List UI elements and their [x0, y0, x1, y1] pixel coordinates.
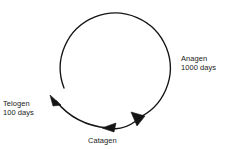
telogen-arc — [56, 101, 108, 128]
telogen-arrowhead-icon — [50, 95, 61, 106]
anagen-arrowhead-icon — [131, 112, 145, 126]
anagen-arc — [60, 13, 170, 119]
telogen-label: Telogen 100 days — [3, 99, 34, 117]
catagen-label: Catagen — [88, 136, 117, 145]
telogen-duration: 100 days — [3, 108, 34, 117]
telogen-phase-name: Telogen — [3, 99, 34, 108]
cycle-arrows-graphic — [0, 0, 233, 149]
anagen-label: Anagen 1000 days — [181, 54, 216, 72]
hair-cycle-diagram: Anagen 1000 days Telogen 100 days Catage… — [0, 0, 233, 149]
anagen-phase-name: Anagen — [181, 54, 216, 63]
catagen-phase-name: Catagen — [88, 136, 117, 145]
anagen-duration: 1000 days — [181, 63, 216, 72]
